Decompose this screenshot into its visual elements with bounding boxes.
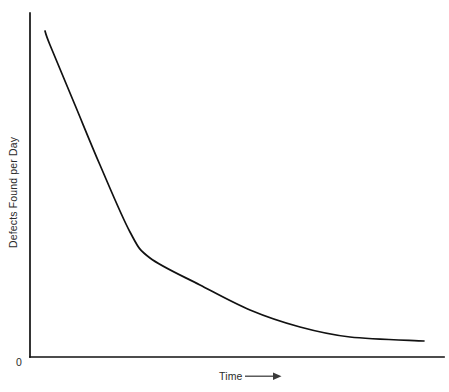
defects-decay-curve bbox=[45, 31, 424, 341]
y-axis-label: Defects Found per Day bbox=[6, 48, 20, 248]
chart-plot-area bbox=[0, 0, 449, 392]
right-arrow-icon bbox=[244, 370, 284, 382]
x-axis-label-group: Time bbox=[219, 368, 284, 384]
chart-figure: Defects Found per Day Time 0 bbox=[0, 0, 449, 392]
x-axis-label: Time bbox=[219, 368, 243, 384]
origin-tick-label: 0 bbox=[16, 355, 22, 369]
